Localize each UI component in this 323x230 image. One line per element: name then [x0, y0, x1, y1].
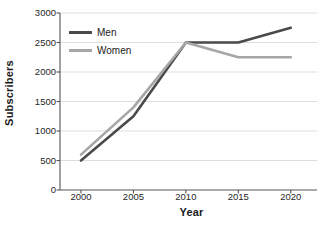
legend-item[interactable]: Women — [69, 45, 131, 56]
legend-swatch-icon — [69, 31, 92, 34]
legend-item[interactable]: Men — [69, 27, 131, 38]
x-axis-tick-label: 2005 — [113, 192, 153, 202]
x-axis-title-text: Year — [179, 206, 203, 218]
chart-legend: MenWomen — [69, 27, 131, 56]
x-axis-tick-label: 2000 — [61, 192, 101, 202]
x-axis-tick-labels: 20002005201020152020 — [0, 192, 323, 206]
line-chart: Subscribers 050010001500200025003000 200… — [0, 0, 323, 230]
series-line-women — [81, 43, 291, 155]
x-axis-tick-label: 2015 — [218, 192, 258, 202]
x-axis-tick-label: 2010 — [166, 192, 206, 202]
x-axis-tick-label: 2020 — [271, 192, 311, 202]
x-axis-title: Year — [60, 206, 323, 218]
legend-item-label: Men — [97, 28, 116, 38]
legend-item-label: Women — [97, 46, 131, 56]
legend-swatch-icon — [69, 49, 92, 52]
